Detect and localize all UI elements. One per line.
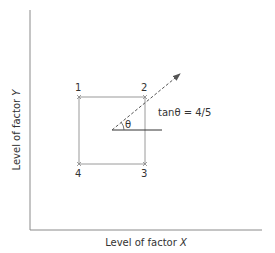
x-axis-title: Level of factor X xyxy=(105,237,188,248)
corner-label-3: 3 xyxy=(141,168,147,179)
corner-label-4: 4 xyxy=(75,168,81,179)
theta-label: θ xyxy=(125,119,131,130)
corner-label-2: 2 xyxy=(141,82,147,93)
corner-label-1: 1 xyxy=(75,82,81,93)
y-axis-title: Level of factor Y xyxy=(11,89,22,171)
angle-arc xyxy=(121,122,124,130)
factor-diagram: 1 2 3 4 θ tanθ = 4/5 Level of factor X L… xyxy=(0,0,275,253)
tan-equation: tanθ = 4/5 xyxy=(158,107,211,118)
